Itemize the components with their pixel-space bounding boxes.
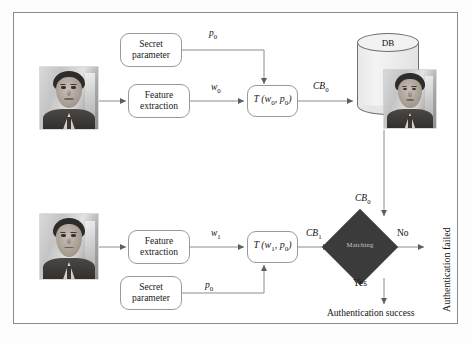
figure-canvas: Secret parameter Feature extraction T (w… <box>0 0 471 345</box>
stored-face-template <box>384 70 436 128</box>
feature-extraction-box-top[interactable]: Feature extraction <box>128 84 190 118</box>
face-photo-enrollment <box>40 67 98 129</box>
transform-box-top-formula: T (w0, p0) <box>253 93 291 109</box>
label-w1: w1 <box>211 228 221 240</box>
feature-extraction-bottom-line1: Feature <box>145 236 174 247</box>
feature-extraction-box-bottom[interactable]: Feature extraction <box>128 230 190 264</box>
secret-parameter-line2: parameter <box>132 50 170 61</box>
secret-parameter-box-bottom[interactable]: Secret parameter <box>120 276 182 310</box>
label-p0-bottom: p0 <box>205 280 213 292</box>
authentication-failed-text: Authentication failed <box>441 227 452 312</box>
secret-parameter-line1: Secret <box>139 39 163 50</box>
db-label: DB <box>357 38 419 48</box>
transform-box-top[interactable]: T (w0, p0) <box>247 85 298 117</box>
feature-extraction-line2: extraction <box>140 101 178 112</box>
decision-no-label: No <box>397 228 409 238</box>
feature-extraction-bottom-line2: extraction <box>140 247 178 258</box>
decision-yes-label: Yes <box>353 278 367 288</box>
label-cb0-from-db: CB0 <box>355 193 371 205</box>
label-cb1: CB1 <box>306 228 322 240</box>
label-w0: w0 <box>211 82 221 94</box>
secret-parameter-bottom-line2: parameter <box>132 293 170 304</box>
authentication-success-text: Authentication success <box>327 308 414 318</box>
matching-label: Matching <box>333 241 387 248</box>
label-p0-top: p0 <box>209 28 217 40</box>
secret-parameter-bottom-line1: Secret <box>139 282 163 293</box>
transform-box-bottom-formula: T (w1, p0) <box>253 239 291 255</box>
face-photo-probe <box>40 214 98 279</box>
transform-box-bottom[interactable]: T (w1, p0) <box>247 231 298 263</box>
secret-parameter-box-top[interactable]: Secret parameter <box>120 33 182 67</box>
label-cb0-top: CB0 <box>313 81 329 93</box>
feature-extraction-line1: Feature <box>145 90 174 101</box>
